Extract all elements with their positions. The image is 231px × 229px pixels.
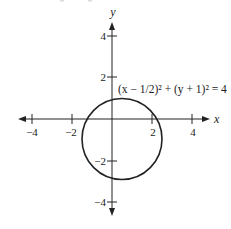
y-tick-label: −4 [94,196,106,208]
circle-graph: −4 −2 2 4 x 4 2 −2 −4 y (x − 1/2)² + (y … [0,0,231,229]
y-axis-label: y [109,5,116,19]
cropped-text-fragment [60,0,92,2]
y-tick-label: 2 [101,71,107,83]
x-axis-left-arrow-icon [18,116,26,122]
y-axis-down-arrow-icon [109,208,115,216]
x-tick-label: −2 [65,126,77,138]
x-tick-label: 4 [190,126,196,138]
circle-equation: (x − 1/2)² + (y + 1)² = 4 [118,83,227,96]
x-tick-label: 2 [150,126,156,138]
y-tick-label: −2 [94,155,106,167]
y-tick-label: 4 [101,30,107,42]
x-axis-right-arrow-icon [202,116,210,122]
y-axis-up-arrow-icon [109,22,115,30]
x-tick-label: −4 [26,126,38,138]
x-axis-label: x [213,112,220,126]
circle-curve [82,99,162,180]
